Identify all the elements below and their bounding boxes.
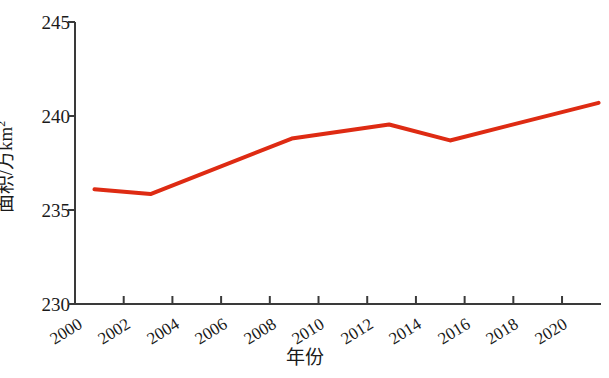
chart-figure: 面积/万km2 年份 245 240 235 230 2000 2002 200… bbox=[0, 0, 609, 378]
plot-area bbox=[0, 0, 609, 378]
data-line-series-area bbox=[94, 103, 598, 194]
x-axis-ticks bbox=[75, 296, 562, 304]
y-axis-ticks bbox=[68, 22, 75, 304]
